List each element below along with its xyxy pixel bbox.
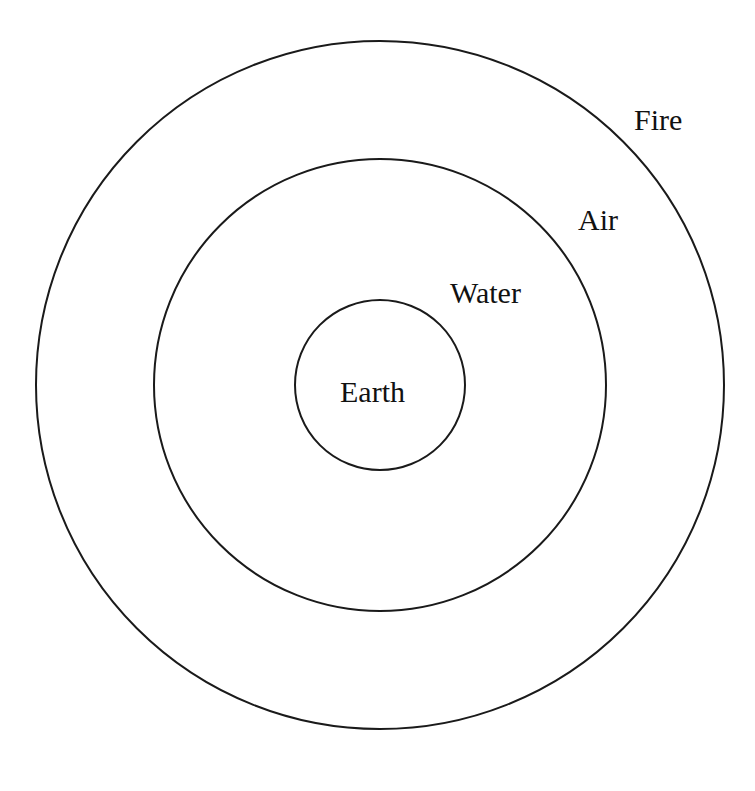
ring-label-water: Water: [450, 276, 521, 309]
ring-label-fire: Fire: [634, 103, 682, 136]
ring-label-earth: Earth: [340, 375, 405, 408]
concentric-circles-diagram: Fire Air Water Earth: [0, 0, 755, 791]
ring-label-air: Air: [578, 203, 618, 236]
diagram-canvas: Fire Air Water Earth: [0, 0, 755, 791]
